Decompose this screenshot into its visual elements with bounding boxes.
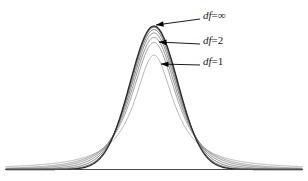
arrowhead-icon <box>156 21 164 27</box>
annotation-leaders-group <box>156 19 200 67</box>
density-curves-group <box>6 26 302 169</box>
density-curve-df-10 <box>6 30 302 170</box>
t-distribution-figure: df=∞df=2df=1 <box>0 0 308 181</box>
annot-df-1-leader <box>161 61 200 67</box>
density-curve-df-infinity <box>6 26 302 169</box>
annot-df-infinity-leader <box>156 19 200 27</box>
density-curve-df-30 <box>6 27 302 169</box>
density-curve-df-5 <box>6 33 302 169</box>
annotation-value: ∞ <box>218 9 226 21</box>
annot-df-infinity-label: df=∞ <box>203 9 226 21</box>
t-distribution-chart <box>0 0 308 181</box>
annot-df-2-label: df=2 <box>203 34 223 46</box>
density-curve-df-3 <box>6 37 302 168</box>
density-curve-df-1 <box>6 55 302 167</box>
annotation-value: 1 <box>218 55 224 67</box>
annotation-variable: df <box>203 9 212 21</box>
annot-df-1-label: df=1 <box>203 55 223 67</box>
annotation-variable: df <box>203 55 212 67</box>
density-curve-df-2 <box>6 42 302 168</box>
annot-df-2-leader <box>159 40 200 46</box>
annotation-value: 2 <box>218 34 224 46</box>
annotation-variable: df <box>203 34 212 46</box>
